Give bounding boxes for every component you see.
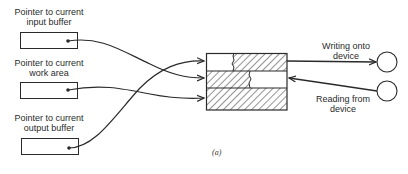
reading-arrow bbox=[289, 78, 377, 91]
input-pointer-arrow bbox=[68, 40, 204, 78]
buffer-diagram bbox=[0, 0, 408, 174]
buffer-row-1-hatched bbox=[232, 53, 287, 71]
buffer-row-3-hatched bbox=[206, 88, 287, 110]
output-pointer-arrow bbox=[69, 61, 204, 148]
writing-arrow bbox=[287, 61, 376, 62]
device-write-circle bbox=[377, 52, 397, 72]
buffer-block bbox=[206, 53, 287, 110]
device-read-circle bbox=[377, 81, 397, 101]
buffer-row-2-hatched bbox=[206, 71, 251, 88]
